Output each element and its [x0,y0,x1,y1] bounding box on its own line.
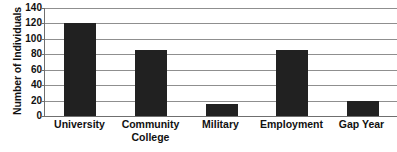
x-axis-label-line: Gap Year [326,118,397,131]
bar [206,104,238,116]
y-tick-label: 60 [18,65,42,75]
x-axis-label-line: Community [115,118,186,131]
x-axis-label: Gap Year [326,118,397,131]
y-tick-label: 0 [18,111,42,121]
x-axis-label-line: College [115,131,186,144]
bar [64,23,96,116]
x-axis-label: Employment [256,118,327,131]
y-tick-label: 120 [18,18,42,28]
y-tick-label: 20 [18,96,42,106]
bar [347,101,379,116]
bar [276,50,308,116]
y-tick-label: 140 [18,3,42,13]
x-axis-label-line: Military [185,118,256,131]
bar-chart: Number of Individuals 020406080100120140… [0,0,397,152]
x-axis-label: CommunityCollege [115,118,186,143]
y-tick-label: 80 [18,49,42,59]
x-axis-label: Military [185,118,256,131]
y-tick-label: 40 [18,80,42,90]
x-axis-label-line: Employment [256,118,327,131]
x-axis-label-line: University [44,118,115,131]
plot-area [44,8,397,116]
x-axis-label: University [44,118,115,131]
bar-series [45,8,397,116]
y-axis-tick-labels: 020406080100120140 [18,3,42,116]
tick-mark [41,116,45,117]
bar [135,50,167,116]
axis-baseline [45,116,397,117]
y-tick-label: 100 [18,34,42,44]
x-axis-category-labels: UniversityCommunityCollegeMilitaryEmploy… [44,118,397,152]
